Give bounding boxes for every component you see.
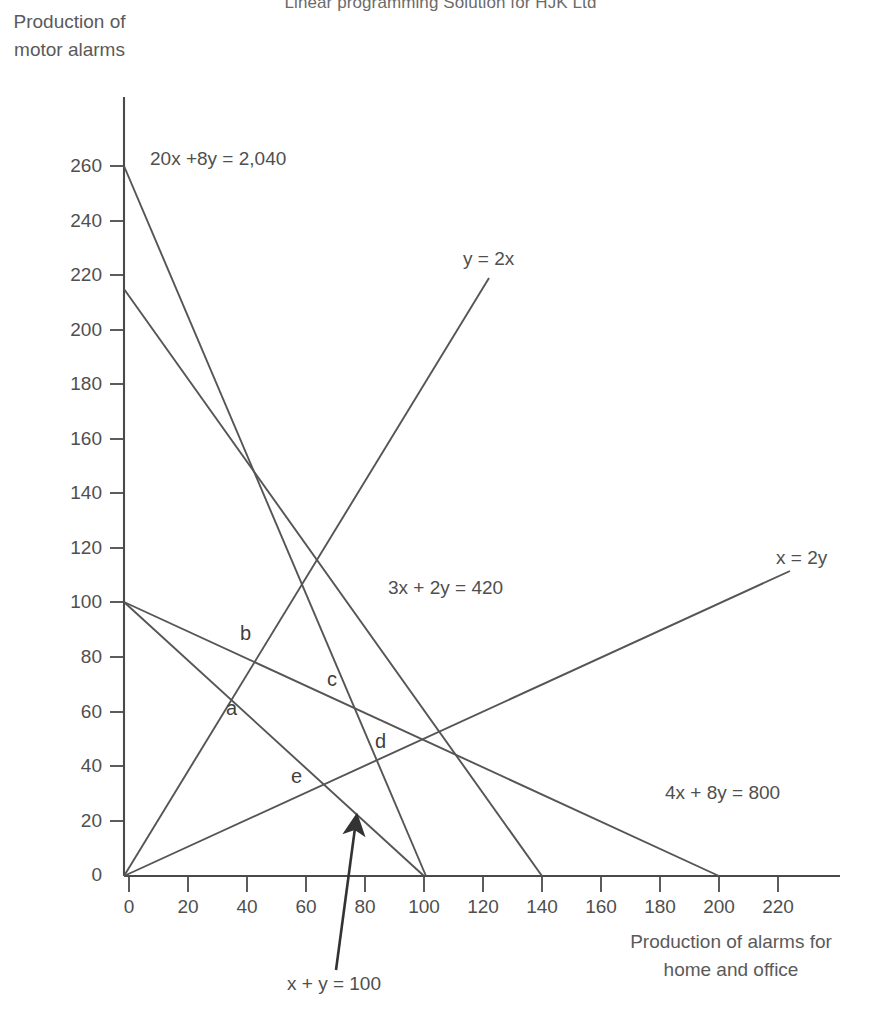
vertex-label-b: b xyxy=(240,622,251,645)
x-tick-label-220: 220 xyxy=(753,896,803,918)
equation-label-20x-8y-2040: 20x +8y = 2,040 xyxy=(150,148,286,170)
y-tick-label-200: 200 xyxy=(50,319,102,341)
y-tick-label-40: 40 xyxy=(50,755,102,777)
x-tick-label-120: 120 xyxy=(458,896,508,918)
equation-label-4x-8y-800: 4x + 8y = 800 xyxy=(665,782,780,804)
y-axis-ticks xyxy=(110,166,124,821)
x-axis-ticks xyxy=(129,876,778,892)
x-tick-label-20: 20 xyxy=(163,896,213,918)
x-tick-label-80: 80 xyxy=(340,896,390,918)
y-tick-label-140: 140 xyxy=(50,482,102,504)
y-axis-title: Production of motor alarms xyxy=(2,8,137,64)
y-tick-label-80: 80 xyxy=(50,646,102,668)
vertex-label-d: d xyxy=(375,730,386,753)
line-x-equals-2y xyxy=(124,571,790,876)
linear-programming-chart xyxy=(0,0,881,1012)
y-tick-label-260: 260 xyxy=(50,155,102,177)
y-tick-label-0: 0 xyxy=(50,864,102,886)
y-tick-label-180: 180 xyxy=(50,373,102,395)
y-tick-label-20: 20 xyxy=(50,810,102,832)
x-axis-title-line-2: home and office xyxy=(664,959,799,980)
equation-label-y-equals-2x: y = 2x xyxy=(463,248,514,270)
y-tick-label-60: 60 xyxy=(50,701,102,723)
x-tick-label-200: 200 xyxy=(694,896,744,918)
equation-label-x-equals-2y: x = 2y xyxy=(776,547,827,569)
x-tick-label-60: 60 xyxy=(281,896,331,918)
chart-page: Linear programming Solution for HJK Ltd … xyxy=(0,0,881,1012)
x-tick-label-40: 40 xyxy=(222,896,272,918)
axis-lines xyxy=(124,97,840,876)
y-tick-label-220: 220 xyxy=(50,264,102,286)
y-tick-label-120: 120 xyxy=(50,537,102,559)
x-tick-label-160: 160 xyxy=(576,896,626,918)
y-tick-label-240: 240 xyxy=(50,210,102,232)
x-tick-label-0: 0 xyxy=(104,896,154,918)
equation-label-3x-2y-420: 3x + 2y = 420 xyxy=(388,577,503,599)
x-axis-title-line-1: Production of alarms for xyxy=(630,931,832,952)
line-20x-8y-2040 xyxy=(124,166,426,876)
vertex-label-c: c xyxy=(327,668,337,691)
vertex-label-e: e xyxy=(291,765,302,788)
x-tick-label-140: 140 xyxy=(517,896,567,918)
vertex-label-a: a xyxy=(226,697,237,720)
x-tick-label-100: 100 xyxy=(399,896,449,918)
y-tick-label-100: 100 xyxy=(50,591,102,613)
x-tick-label-180: 180 xyxy=(635,896,685,918)
constraint-lines xyxy=(124,166,790,876)
equation-label-x-plus-y-100: x + y = 100 xyxy=(287,973,381,995)
y-tick-label-160: 160 xyxy=(50,428,102,450)
x-axis-title: Production of alarms for home and office xyxy=(600,928,862,984)
